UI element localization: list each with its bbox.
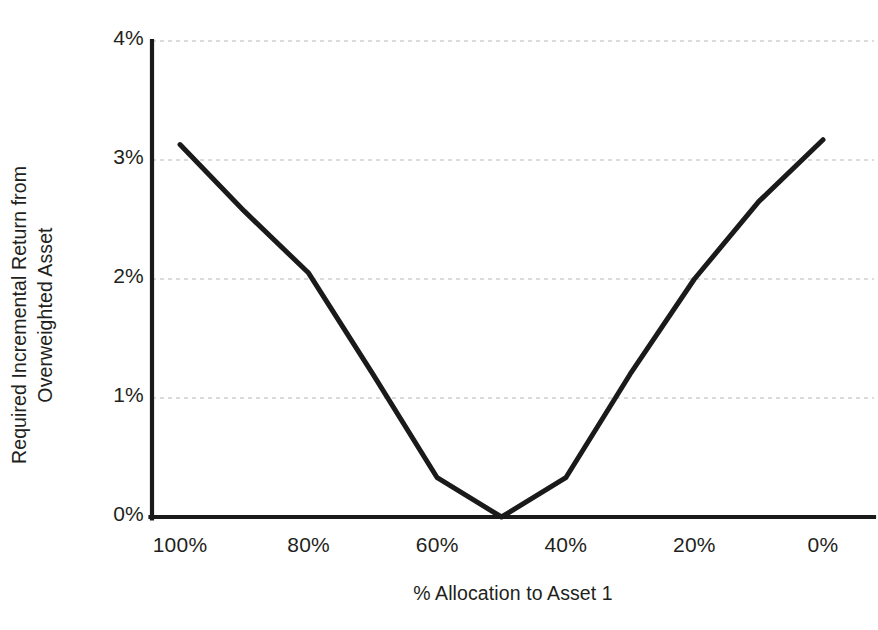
x-axis-tick-label: 80% — [287, 533, 330, 557]
x-axis-tick-label: 0% — [808, 533, 839, 557]
x-axis-tick-labels: 100%80%60%40%20%0% — [0, 0, 878, 630]
x-axis-tick-label: 60% — [416, 533, 459, 557]
x-axis-tick-label: 100% — [153, 533, 208, 557]
x-axis-tick-label: 20% — [673, 533, 716, 557]
x-axis-title: % Allocation to Asset 1 — [152, 582, 874, 605]
x-axis-tick-label: 40% — [544, 533, 587, 557]
chart-figure: 4%3%2%1%0% 100%80%60%40%20%0% Required I… — [0, 0, 878, 630]
